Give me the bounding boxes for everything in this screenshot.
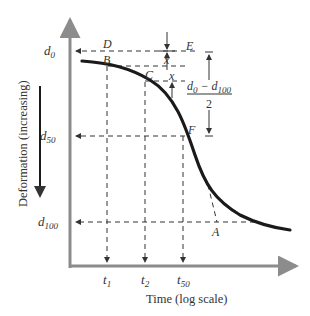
- y-tick-d100: d100: [38, 214, 59, 231]
- half-difference-fraction: d0−d100 2: [187, 79, 232, 111]
- consolidation-curve: [82, 61, 290, 230]
- x-tick-t2: t2: [141, 272, 150, 289]
- y-tick-labels: d0 d50 d100: [38, 43, 59, 231]
- point-f-label: F: [187, 123, 196, 137]
- y-tick-d0: d0: [44, 43, 56, 60]
- offset-arrows: [159, 32, 232, 136]
- fraction-numerator: d0−d100: [187, 79, 232, 95]
- y-tick-d50: d50: [40, 128, 56, 145]
- x-axis-label: Time (log scale): [146, 292, 227, 306]
- offset-x-label-1: x: [163, 53, 170, 67]
- point-b-label: B: [103, 53, 111, 67]
- consolidation-diagram: d0 d50 d100 t1 t2 t50 Time (log scale) D…: [0, 0, 310, 316]
- x-tick-t50: t50: [177, 272, 190, 289]
- point-e-label: E: [185, 39, 194, 53]
- construction-lines: [76, 51, 255, 262]
- x-tick-labels: t1 t2 t50: [103, 272, 190, 289]
- point-a-label: A: [211, 225, 220, 239]
- point-d-label: D: [102, 37, 112, 51]
- y-axis-label: Deformation (increasing): [16, 80, 30, 207]
- fraction-denominator: 2: [206, 97, 212, 111]
- offset-x-label-2: x: [168, 69, 175, 83]
- x-tick-t1: t1: [103, 272, 111, 289]
- point-c-label: C: [145, 68, 154, 82]
